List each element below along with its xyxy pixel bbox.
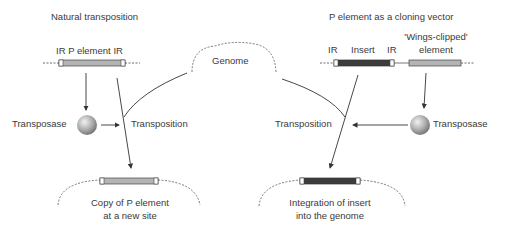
- cloning-vector-construct: [320, 60, 475, 66]
- result-label-left-1: Copy of P element: [80, 198, 180, 209]
- copied-p-element: [100, 178, 158, 184]
- ir-right-label: IR: [387, 45, 397, 56]
- transposase-sphere-right: [410, 115, 430, 135]
- ir-left-label: IR: [328, 45, 338, 56]
- transposase-label-left: Transposase: [12, 119, 67, 130]
- genome-curve-left: [124, 73, 187, 117]
- left-p-element: [43, 60, 140, 66]
- arrow-to-transposase-right: [424, 73, 426, 108]
- p-element-label: IR P element IR: [56, 46, 123, 57]
- genome-curve-right: [282, 79, 345, 117]
- result-label-left-2: at a new site: [80, 211, 180, 222]
- transposition-arrow-right: [330, 75, 358, 168]
- result-label-right-2: into the genome: [275, 211, 385, 222]
- result-label-right-1: Integration of insert: [275, 198, 385, 209]
- transposition-label-left: Transposition: [131, 119, 188, 130]
- genome-label: Genome: [212, 56, 248, 67]
- transposase-label-right: Transposase: [433, 119, 488, 130]
- wings-clipped-label-2: element: [398, 45, 474, 56]
- integrated-insert: [300, 178, 360, 184]
- right-panel-title: P element as a cloning vector: [329, 12, 453, 23]
- transposase-sphere-left: [77, 115, 97, 135]
- left-panel-title: Natural transposition: [51, 12, 138, 23]
- wings-clipped-label-1: 'Wings-clipped': [398, 32, 474, 43]
- insert-label: Insert: [351, 45, 375, 56]
- transposition-arrow-left: [117, 78, 131, 168]
- transposition-label-right: Transposition: [275, 119, 332, 130]
